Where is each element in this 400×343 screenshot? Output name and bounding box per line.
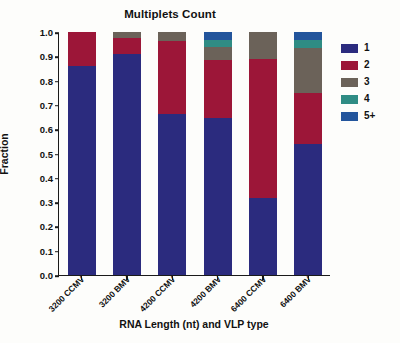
bar-stack bbox=[294, 33, 322, 275]
bar-stack bbox=[204, 33, 232, 275]
bar-column[interactable] bbox=[113, 33, 141, 275]
bar-segment-2[interactable] bbox=[68, 32, 96, 66]
bar-segment-5plus[interactable] bbox=[294, 32, 322, 40]
legend-item-3[interactable]: 3 bbox=[341, 74, 397, 90]
y-tick-label: 0.6 bbox=[27, 125, 53, 135]
bar-segment-2[interactable] bbox=[113, 38, 141, 54]
y-tick-label: 0.3 bbox=[27, 198, 53, 208]
y-tick-label: 0.5 bbox=[27, 150, 53, 160]
y-tick-label: 0.4 bbox=[27, 174, 53, 184]
bar-segment-1[interactable] bbox=[249, 198, 277, 275]
legend-swatch-icon bbox=[341, 112, 358, 121]
legend-item-label: 1 bbox=[364, 43, 370, 53]
legend-item-4[interactable]: 4 bbox=[341, 91, 397, 107]
bar-segment-1[interactable] bbox=[113, 54, 141, 275]
bar-segment-2[interactable] bbox=[294, 93, 322, 144]
bar-segment-2[interactable] bbox=[249, 59, 277, 198]
bar-segment-3[interactable] bbox=[113, 32, 141, 38]
bar-stack bbox=[158, 33, 186, 275]
x-axis-label: RNA Length (nt) and VLP type bbox=[58, 318, 330, 330]
y-tick-label: 0.8 bbox=[27, 77, 53, 87]
bar-column[interactable] bbox=[249, 33, 277, 275]
chart-figure: Multiplets Count Fraction 0.00.10.20.30.… bbox=[0, 0, 400, 343]
legend-item-2[interactable]: 2 bbox=[341, 57, 397, 73]
y-axis-label: Fraction bbox=[0, 133, 10, 174]
legend-swatch-icon bbox=[341, 78, 358, 87]
legend-item-5plus[interactable]: 5+ bbox=[341, 108, 397, 124]
bar-segment-3[interactable] bbox=[294, 48, 322, 93]
legend: 12345+ bbox=[341, 40, 397, 125]
legend-swatch-icon bbox=[341, 95, 358, 104]
x-tick-label: 4200 CCMV bbox=[138, 274, 178, 314]
bar-segment-1[interactable] bbox=[68, 66, 96, 275]
legend-item-label: 5+ bbox=[364, 111, 375, 121]
bar-segment-3[interactable] bbox=[204, 47, 232, 60]
legend-swatch-icon bbox=[341, 44, 358, 53]
bar-segment-2[interactable] bbox=[204, 60, 232, 118]
x-tick-label: 6400 CCMV bbox=[228, 274, 268, 314]
y-tick-mark bbox=[55, 275, 60, 277]
plot-area: Fraction 0.00.10.20.30.40.50.60.70.80.91… bbox=[58, 33, 330, 276]
legend-swatch-icon bbox=[341, 61, 358, 70]
bar-segment-1[interactable] bbox=[294, 144, 322, 275]
legend-item-1[interactable]: 1 bbox=[341, 40, 397, 56]
y-tick-label: 0.1 bbox=[27, 247, 53, 257]
y-tick-label: 1.0 bbox=[27, 28, 53, 38]
y-tick-label: 0.7 bbox=[27, 101, 53, 111]
bar-segment-3[interactable] bbox=[249, 32, 277, 59]
bar-column[interactable] bbox=[204, 33, 232, 275]
bar-column[interactable] bbox=[158, 33, 186, 275]
x-tick-label: 6400 BMV bbox=[278, 274, 313, 309]
legend-item-label: 4 bbox=[364, 94, 370, 104]
x-tick-label: 3200 BMV bbox=[97, 274, 132, 309]
bar-column[interactable] bbox=[68, 33, 96, 275]
bar-segment-1[interactable] bbox=[204, 118, 232, 275]
x-tick-label: 4200 BMV bbox=[187, 274, 222, 309]
bar-stack bbox=[113, 33, 141, 275]
bar-segment-3[interactable] bbox=[158, 32, 186, 41]
y-tick-label: 0.9 bbox=[27, 53, 53, 63]
bars-layer bbox=[59, 33, 330, 275]
legend-item-label: 2 bbox=[364, 60, 370, 70]
page-title: Multiplets Count bbox=[0, 8, 340, 20]
bar-column[interactable] bbox=[294, 33, 322, 275]
bar-segment-2[interactable] bbox=[158, 41, 186, 114]
bar-stack bbox=[249, 33, 277, 275]
bar-segment-1[interactable] bbox=[158, 114, 186, 275]
y-tick-label: 0.2 bbox=[27, 223, 53, 233]
bar-segment-5plus[interactable] bbox=[204, 32, 232, 40]
bar-segment-4[interactable] bbox=[294, 40, 322, 48]
bar-segment-4[interactable] bbox=[204, 40, 232, 47]
y-tick-label: 0.0 bbox=[27, 271, 53, 281]
bar-stack bbox=[68, 33, 96, 275]
legend-item-label: 3 bbox=[364, 77, 370, 87]
